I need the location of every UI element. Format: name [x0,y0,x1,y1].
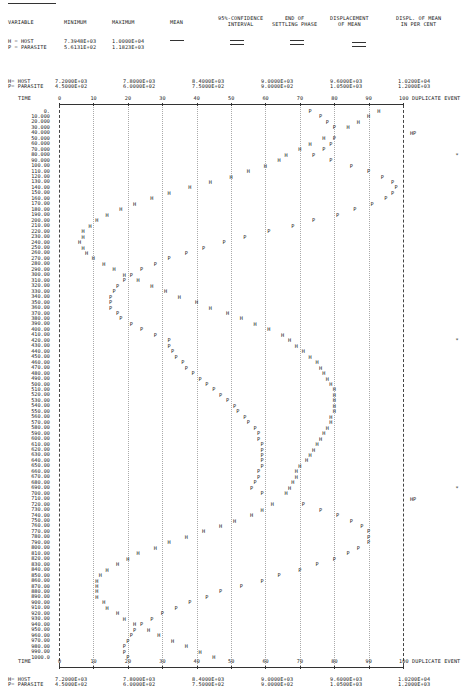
host-point: H [291,480,294,485]
parasite-point: P [367,540,370,545]
parasite-point: P [278,573,281,578]
x-tick-label: 60 [262,95,268,101]
parasite-point: P [154,332,157,337]
empty-value-dash [230,40,244,41]
host-point: H [133,201,136,206]
host-point: H [154,545,157,550]
parasite-scale-value: 1.2000E+03 [398,681,430,687]
host-point: H [326,425,329,430]
host-point: H [309,354,312,359]
host-point: H [212,655,215,660]
parasite-point: P [298,567,301,572]
host-point: H [137,551,140,556]
x-tick-label: 90 [366,95,372,101]
parasite-point: P [384,196,387,201]
grid-line [369,105,370,666]
parasite-point: P [254,480,257,485]
duplicate-event-marker: HP [410,496,416,501]
host-point: H [157,633,160,638]
grid-line [162,105,163,666]
parasite-point: P [243,234,246,239]
x-tick [403,103,404,106]
host-point: H [202,529,205,534]
host-point: H [240,316,243,321]
parasite-point: P [123,278,126,283]
duplicate-event-marker: * [455,152,458,157]
parasite-point: P [185,250,188,255]
x-axis-line [59,667,403,668]
parasite-point: P [353,207,356,212]
parasite-point: P [140,327,143,332]
summary-minimum: 5.6131E+02 [64,44,96,50]
x-tick-label: 30 [159,658,165,664]
host-point: H [147,627,150,632]
parasite-point: P [370,201,373,206]
x-tick-label: 80 [331,658,337,664]
host-point: H [357,119,360,124]
parasite-point: P [198,376,201,381]
host-point: H [95,218,98,223]
parasite-point: P [357,545,360,550]
x-tick-label: 30 [159,95,165,101]
parasite-point: P [322,147,325,152]
host-point: H [233,518,236,523]
parasite-point: P [260,463,263,468]
parasite-scale-value: 1.2000E+03 [398,83,430,89]
duplicate-event-marker: * [455,485,458,490]
grid-line [265,105,266,666]
parasite-scale-value: 1.0500E+03 [330,83,362,89]
summary-header: DISPL. OF MEAN IN PER CENT [396,15,441,27]
host-point: H [95,594,98,599]
grid-line [403,105,404,666]
x-tick-label: 90 [366,658,372,664]
host-point: H [309,141,312,146]
parasite-point: P [226,398,229,403]
left-axis [59,105,60,666]
empty-value-dash [290,40,304,41]
parasite-scale-value: 9.0000E+02 [261,681,293,687]
host-point: H [271,502,274,507]
time-row-label: 1000.0 [31,655,50,660]
parasite-point: P [367,169,370,174]
parasite-point: P [161,611,164,616]
x-tick-label: 50 [228,95,234,101]
parasite-point: P [112,289,115,294]
summary-header: VARIABLE [8,19,34,25]
parasite-point: P [336,513,339,518]
host-point: H [164,289,167,294]
host-point: H [185,534,188,539]
summary-variable: P = PARASITE [8,44,47,50]
host-point: H [284,491,287,496]
parasite-point: P [333,556,336,561]
host-point: H [116,562,119,567]
parasite-point: P [350,163,353,168]
parasite-point: P [133,627,136,632]
host-point: H [106,567,109,572]
host-point: H [322,431,325,436]
host-point: H [178,294,181,299]
parasite-scale-value: 6.0000E+02 [123,83,155,89]
grid-line [231,105,232,666]
host-point: H [298,463,301,468]
parasite-point: P [329,141,332,146]
parasite-point: P [333,125,336,130]
host-point: H [322,136,325,141]
parasite-point: P [219,589,222,594]
parasite-point: P [205,382,208,387]
parasite-scale-value: 4.5000E+02 [55,83,87,89]
parasite-point: P [205,594,208,599]
parasite-point: P [140,267,143,272]
x-tick-label: 80 [331,95,337,101]
host-point: H [92,256,95,261]
legend-parasite: P= PARASITE [8,83,43,89]
host-point: H [126,556,129,561]
x-tick-label: 20 [125,658,131,664]
host-point: H [284,152,287,157]
host-point: H [333,409,336,414]
parasite-point: P [319,507,322,512]
parasite-point: P [333,136,336,141]
host-point: H [312,447,315,452]
x-tick-label: 0 [58,658,61,664]
parasite-point: P [140,622,143,627]
host-point: H [102,261,105,266]
